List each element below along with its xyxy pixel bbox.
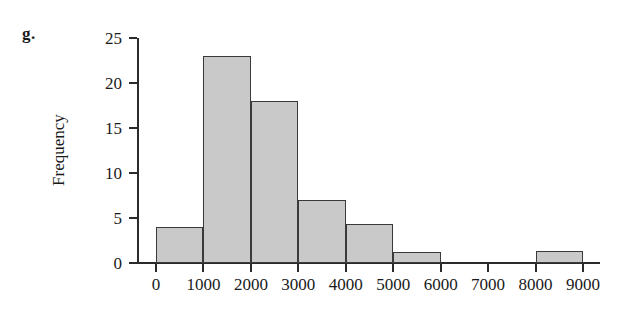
x-tick-label: 4000 (329, 276, 363, 293)
x-tick (487, 264, 489, 272)
y-axis-title: Frequency (50, 114, 67, 186)
plot-area: Frequency 0510152025 0100020003000400050… (0, 0, 640, 319)
histogram-bar (298, 200, 345, 263)
x-tick-label: 1000 (186, 276, 220, 293)
y-tick (129, 172, 137, 174)
x-tick-label: 2000 (234, 276, 268, 293)
histogram-figure: g. Frequency 0510152025 0100020003000400… (0, 0, 640, 319)
x-tick (582, 264, 584, 272)
x-tick (535, 264, 537, 272)
y-tick-label: 20 (88, 75, 122, 92)
y-tick-label: 10 (88, 165, 122, 182)
y-tick-label: 15 (88, 120, 122, 137)
y-tick (129, 37, 137, 39)
x-tick (345, 264, 347, 272)
histogram-bar (536, 251, 583, 263)
x-tick-label: 8000 (519, 276, 553, 293)
y-tick (129, 127, 137, 129)
x-tick-label: 7000 (471, 276, 505, 293)
x-tick (155, 264, 157, 272)
x-tick (250, 264, 252, 272)
x-tick (297, 264, 299, 272)
histogram-bar (346, 224, 393, 263)
y-tick-label-group: 0510152025 (88, 0, 122, 319)
y-tick-label: 5 (88, 210, 122, 227)
y-tick (129, 262, 137, 264)
histogram-bar (156, 227, 203, 263)
histogram-bar (251, 101, 298, 263)
histogram-bar (203, 56, 250, 263)
y-tick-label: 0 (88, 255, 122, 272)
x-tick-label: 3000 (281, 276, 315, 293)
y-tick-label: 25 (88, 30, 122, 47)
x-tick-label: 0 (152, 276, 161, 293)
y-tick (129, 82, 137, 84)
x-tick (392, 264, 394, 272)
x-tick-label: 9000 (566, 276, 600, 293)
y-axis-line (137, 38, 139, 264)
y-tick (129, 217, 137, 219)
x-tick (440, 264, 442, 272)
x-tick-label: 5000 (376, 276, 410, 293)
x-tick (202, 264, 204, 272)
histogram-bar (393, 252, 440, 263)
x-tick-label: 6000 (424, 276, 458, 293)
